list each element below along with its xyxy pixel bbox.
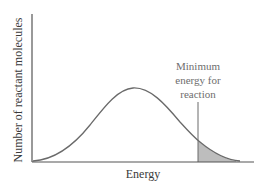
annotation-line-3: reaction: [180, 88, 216, 100]
annotation-line-2: energy for: [175, 74, 221, 86]
energy-distribution-chart: Energy Number of reactant molecules Mini…: [0, 0, 266, 185]
y-axis-label: Number of reactant molecules: [11, 17, 25, 162]
annotation-line-1: Minimum: [176, 60, 220, 72]
x-axis-label: Energy: [126, 167, 160, 181]
